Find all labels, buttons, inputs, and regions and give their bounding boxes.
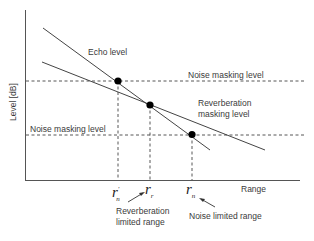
reverb-masking-label-line1: Reverberation	[198, 98, 251, 108]
intersection-dot-rn	[188, 131, 195, 138]
intersection-dot-rn-prime	[114, 77, 121, 84]
noise-masking-label-lower: Noise masking level	[30, 124, 106, 134]
reverb-masking-label-line2: masking level	[198, 109, 250, 119]
tick-label-rn-prime: r'n	[112, 182, 120, 207]
noise-limited-range-label: Noise limited range	[189, 211, 262, 221]
tick-label-rr: rr	[145, 182, 154, 204]
tick-label-rn: rn	[186, 182, 195, 204]
noise-masking-label-upper: Noise masking level	[188, 70, 264, 80]
reverb-limited-range-label-line1: Reverberation	[116, 206, 169, 216]
reverb-limited-range-label-line2: limited range	[116, 217, 165, 227]
arrow-head-noise-limited	[199, 198, 205, 202]
intersection-dot-rr	[146, 101, 153, 108]
y-axis-label: Level [dB]	[8, 83, 18, 121]
x-axis-label: Range	[241, 184, 266, 194]
diagram-canvas	[0, 0, 314, 241]
echo-level-label: Echo level	[88, 47, 127, 57]
